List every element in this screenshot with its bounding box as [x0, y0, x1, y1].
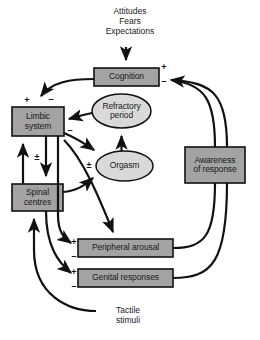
- sign-genital-minus: –: [70, 282, 78, 291]
- diagram-graphics: [0, 0, 260, 340]
- node-shape-cognition: [94, 68, 159, 86]
- node-shape-limbic-system: [12, 107, 64, 136]
- edge-peripheral-to-awareness: [173, 183, 215, 248]
- diagram-canvas: Cognition Limbic system Spinal centres R…: [0, 0, 260, 340]
- sign-orgasm-plusminus: ±: [85, 161, 93, 170]
- sign-peripheral-minus: –: [70, 252, 78, 261]
- sign-limbic-plus: +: [23, 96, 31, 105]
- node-shape-refractory-period: [92, 94, 151, 128]
- edge-tactile-to-spinal: [34, 219, 96, 311]
- edge-spinal-to-orgasm: [63, 178, 93, 192]
- edge-limbic-to-orgasm: [64, 133, 94, 150]
- sign-limbic-spinal-plusminus: ±: [33, 153, 41, 162]
- node-shape-genital-responses: [78, 269, 173, 287]
- edge-limbic-to-peripheral-diagonal: [64, 140, 113, 232]
- annotation-input-stimuli: Attitudes Fears Expectations: [86, 6, 174, 36]
- annotation-tactile-stimuli: Tactile stimuli: [100, 305, 156, 325]
- node-shape-spinal-centres: [12, 184, 63, 211]
- edge-refractory-to-limbic: [69, 113, 92, 119]
- sign-limbic-minus: –: [47, 95, 55, 104]
- node-shape-awareness: [185, 147, 245, 183]
- node-shape-orgasm: [96, 151, 153, 181]
- edge-genital-to-awareness: [173, 183, 227, 278]
- sign-cognition-minus: –: [160, 77, 168, 86]
- sign-limbic-output-minus: –: [66, 126, 74, 135]
- sign-cognition-plus: +: [160, 63, 168, 72]
- sign-peripheral-plus: +: [70, 238, 78, 247]
- sign-genital-plus: +: [70, 268, 78, 277]
- node-shape-peripheral-arousal: [78, 239, 173, 257]
